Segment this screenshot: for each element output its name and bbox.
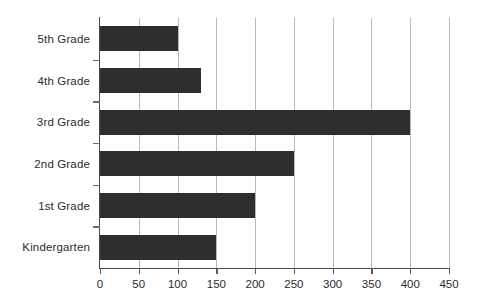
gridline — [410, 18, 411, 268]
x-axis-tick — [410, 268, 411, 274]
bar[interactable] — [100, 68, 201, 93]
bar[interactable] — [100, 151, 294, 176]
x-axis-tick-label: 350 — [362, 278, 381, 291]
category-axis-label: Kindergarten — [0, 241, 90, 253]
bar[interactable] — [100, 235, 216, 260]
x-axis-tick — [100, 268, 101, 274]
category-axis-label: 3rd Grade — [0, 116, 90, 128]
category-axis-labels: 5th Grade4th Grade3rd Grade2nd Grade1st … — [0, 0, 90, 306]
bar[interactable] — [100, 110, 410, 135]
plot-area — [100, 18, 449, 268]
x-axis-tick-label: 100 — [168, 278, 187, 291]
gridline — [294, 18, 295, 268]
x-axis-line — [99, 268, 450, 269]
gridline — [255, 18, 256, 268]
bar-chart: 5th Grade4th Grade3rd Grade2nd Grade1st … — [0, 0, 481, 306]
x-axis-tick-label: 300 — [323, 278, 342, 291]
x-axis-tick-label: 150 — [207, 278, 226, 291]
x-axis-tick-label: 400 — [401, 278, 420, 291]
bar[interactable] — [100, 26, 178, 51]
x-axis-tick — [333, 268, 334, 274]
x-axis-tick — [216, 268, 217, 274]
gridline — [449, 18, 450, 268]
gridline — [178, 18, 179, 268]
gridline — [216, 18, 217, 268]
x-axis-tick — [371, 268, 372, 274]
gridline — [139, 18, 140, 268]
y-axis-tick — [93, 60, 100, 61]
gridline — [371, 18, 372, 268]
x-axis-tick-label: 0 — [97, 278, 103, 291]
category-axis-label: 1st Grade — [0, 200, 90, 212]
category-axis-label: 2nd Grade — [0, 158, 90, 170]
category-axis-label: 4th Grade — [0, 75, 90, 87]
category-axis-label: 5th Grade — [0, 33, 90, 45]
y-axis-tick — [93, 185, 100, 186]
x-axis-tick — [294, 268, 295, 274]
y-axis-tick — [93, 143, 100, 144]
bar[interactable] — [100, 193, 255, 218]
x-axis-tick — [139, 268, 140, 274]
gridline — [333, 18, 334, 268]
y-axis-tick — [93, 101, 100, 102]
x-axis-tick-label: 50 — [132, 278, 145, 291]
x-axis-tick-label: 450 — [439, 278, 458, 291]
x-axis-tick — [178, 268, 179, 274]
x-axis-tick-label: 200 — [246, 278, 265, 291]
x-axis-tick-label: 250 — [284, 278, 303, 291]
x-axis-tick — [255, 268, 256, 274]
y-axis-tick — [93, 226, 100, 227]
x-axis-tick — [449, 268, 450, 274]
